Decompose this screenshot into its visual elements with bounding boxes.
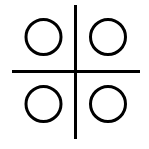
quadrant-icon-canvas (0, 0, 149, 149)
circle-top-right-icon (91, 20, 126, 55)
four-circles-quadrant-icon (0, 0, 149, 149)
circle-bottom-left-icon (26, 87, 61, 122)
circle-top-left-icon (26, 20, 61, 55)
circle-bottom-right-icon (91, 87, 126, 122)
